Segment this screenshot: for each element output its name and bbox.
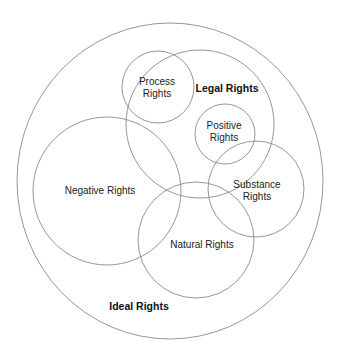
process-rights-label-line1: Process [139, 76, 175, 87]
positive-rights-label-line1: Positive [206, 120, 241, 131]
process-rights-circle [122, 51, 194, 123]
natural-rights-label: Natural Rights [170, 239, 233, 250]
legal-rights-circle [126, 50, 274, 198]
rights-venn-diagram: Process Rights Legal Rights Positive Rig… [0, 0, 337, 354]
negative-rights-label: Negative Rights [65, 185, 136, 196]
substance-rights-label-line2: Rights [243, 191, 271, 202]
legal-rights-label: Legal Rights [195, 82, 258, 94]
substance-rights-label-line1: Substance [233, 179, 281, 190]
process-rights-label-line2: Rights [143, 88, 171, 99]
ideal-rights-label: Ideal Rights [109, 300, 169, 312]
positive-rights-label-line2: Rights [210, 132, 238, 143]
